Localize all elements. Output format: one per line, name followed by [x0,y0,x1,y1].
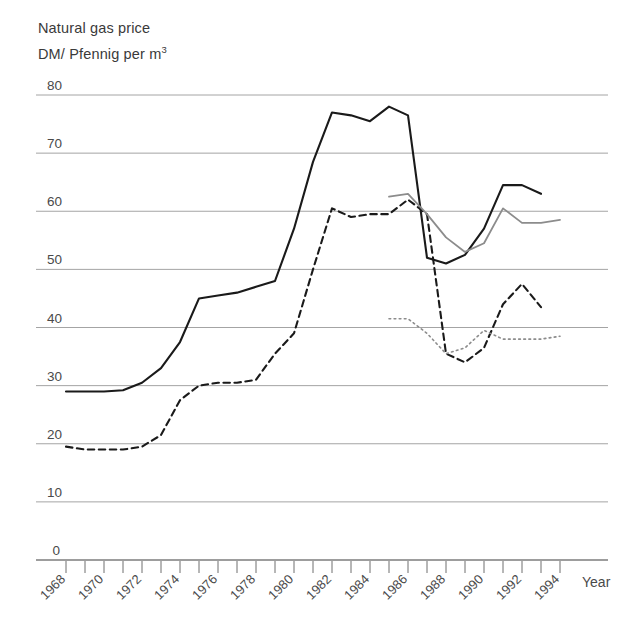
y-tick-label-30: 30 [47,369,62,384]
y-tick-label-20: 20 [47,427,62,442]
chart-plot-area: 80706050403020100 1968197019721974197619… [0,0,631,628]
x-tick-label-1974: 1974 [151,572,182,603]
x-tick-label-1968: 1968 [37,572,68,603]
series-dashed-black [66,200,541,450]
x-tick-label-1976: 1976 [189,572,220,603]
gridlines-group [36,95,608,560]
y-tick-label-50: 50 [47,252,62,267]
data-series-group [66,107,560,450]
x-tick-label-1994: 1994 [531,572,562,603]
x-tick-label-1982: 1982 [303,572,334,603]
chart-figure: Natural gas price DM/ Pfennig per m3 807… [0,0,631,628]
x-tick-label-1972: 1972 [113,572,144,603]
y-tick-label-0: 0 [52,543,60,558]
x-axis-title: Year [582,574,611,590]
x-axis-tick-labels: 1968197019721974197619781980198219841986… [37,572,562,603]
y-tick-label-70: 70 [47,136,62,151]
x-tick-label-1992: 1992 [493,572,524,603]
x-tick-label-1990: 1990 [455,572,486,603]
series-dotted-gray [389,319,560,354]
x-tick-label-1988: 1988 [417,572,448,603]
y-tick-label-80: 80 [47,78,62,93]
y-tick-label-10: 10 [47,485,62,500]
x-tick-label-1978: 1978 [227,572,258,603]
x-tick-label-1980: 1980 [265,572,296,603]
y-tick-label-40: 40 [47,311,62,326]
y-tick-label-60: 60 [47,194,62,209]
x-axis-ticks [66,561,560,573]
x-tick-label-1986: 1986 [379,572,410,603]
x-tick-label-1984: 1984 [341,572,372,603]
x-tick-label-1970: 1970 [75,572,106,603]
y-axis-tick-labels: 80706050403020100 [47,78,62,558]
